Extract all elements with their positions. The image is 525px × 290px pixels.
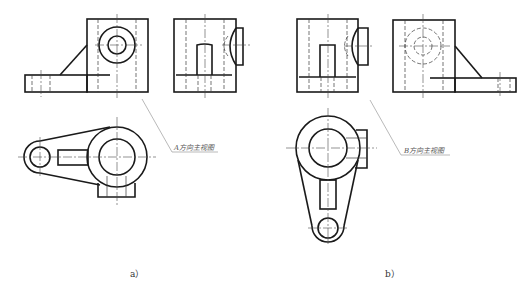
- panel-b-view-label: B方向主视图: [403, 147, 445, 155]
- panel-a: A方向主视图 a）: [18, 14, 250, 279]
- panel-a-side-view: [174, 14, 250, 98]
- panel-b-caption: b）: [385, 269, 400, 279]
- panel-a-top-view: [18, 117, 156, 207]
- panel-a-caption: a）: [130, 269, 144, 279]
- panel-a-front-view: [25, 14, 148, 98]
- panel-b-side-view: [393, 14, 516, 98]
- panel-a-view-callout: A方向主视图: [142, 99, 218, 152]
- panel-b-front-view: [297, 14, 372, 98]
- technical-drawing: A方向主视图 a）: [0, 0, 525, 290]
- panel-b: B方向主视图 b）: [286, 14, 516, 279]
- panel-b-top-view: [286, 108, 377, 244]
- panel-a-view-label: A方向主视图: [173, 144, 215, 152]
- panel-b-view-callout: B方向主视图: [370, 100, 450, 155]
